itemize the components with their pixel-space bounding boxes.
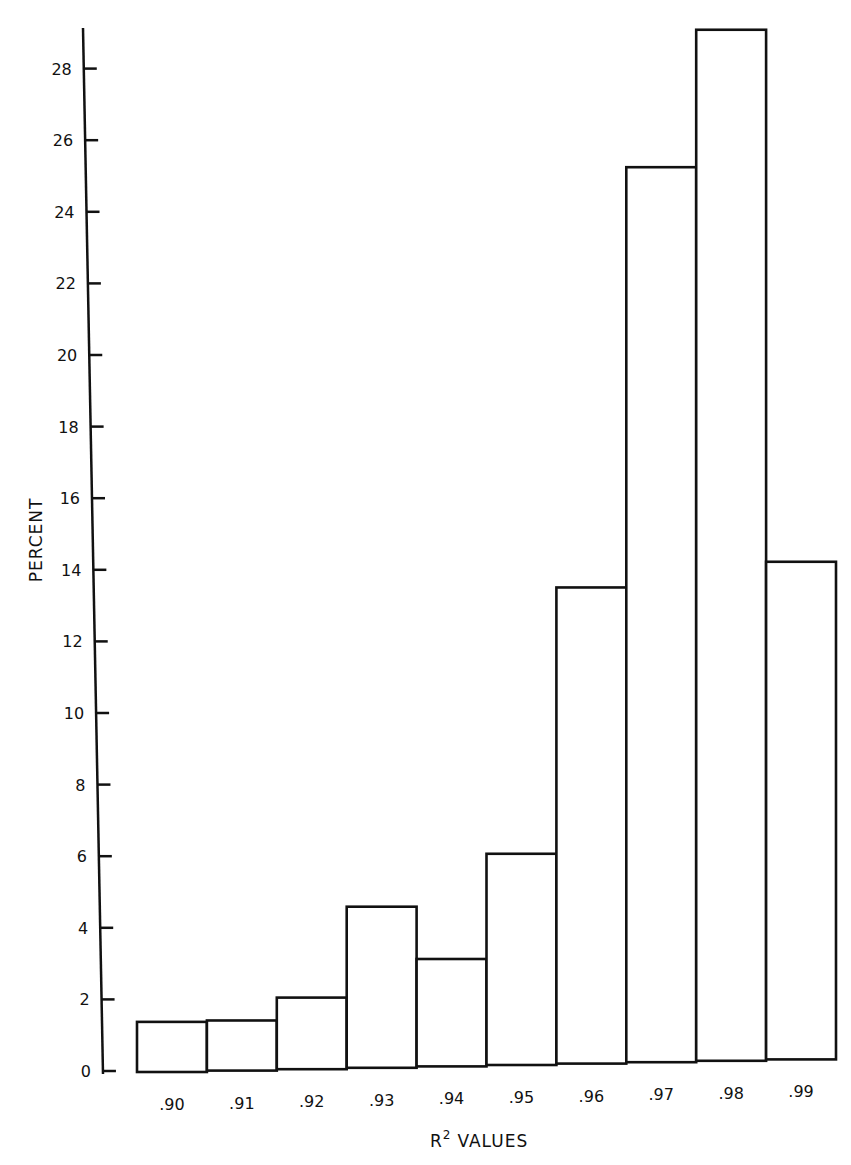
x-tick-label: .92: [299, 1092, 324, 1111]
y-axis-line: [83, 28, 103, 1074]
y-tick-label: 16: [60, 489, 80, 508]
histogram-bar: [696, 30, 766, 1061]
x-tick-label: .95: [509, 1088, 534, 1107]
x-axis-title-base: R: [430, 1131, 443, 1151]
x-axis-title: R2VALUES: [430, 1128, 528, 1151]
x-tick-label: .94: [439, 1089, 464, 1108]
histogram-bar: [417, 959, 487, 1066]
x-tick-label: .93: [369, 1091, 394, 1110]
histogram-bar: [626, 167, 696, 1062]
y-tick-label: 0: [81, 1062, 91, 1081]
y-tick-label: 4: [78, 919, 88, 938]
histogram-bar: [347, 907, 417, 1068]
x-tick-label: .98: [718, 1084, 743, 1103]
y-axis: 0246810121416182022242628: [51, 28, 116, 1081]
x-axis-labels: .90.91.92.93.94.95.96.97.98.99: [159, 1082, 814, 1114]
x-tick-label: .97: [649, 1085, 674, 1104]
y-axis-title: PERCENT: [26, 498, 46, 583]
histogram-chart: 0246810121416182022242628 .90.91.92.93.9…: [0, 0, 851, 1165]
histogram-bar: [766, 562, 836, 1060]
y-tick-label: 18: [58, 418, 78, 437]
x-tick-label: .99: [788, 1082, 813, 1101]
x-tick-label: .91: [229, 1094, 254, 1113]
x-axis-title-rest: VALUES: [457, 1131, 528, 1151]
y-tick-label: 2: [79, 990, 89, 1009]
histogram-bar: [207, 1020, 277, 1070]
histogram-bar: [556, 587, 626, 1063]
y-tick-label: 26: [53, 131, 73, 150]
x-tick-label: .96: [579, 1087, 604, 1106]
y-tick-label: 6: [77, 847, 87, 866]
y-tick-label: 14: [61, 561, 81, 580]
y-tick-label: 10: [64, 704, 84, 723]
histogram-bar: [277, 998, 347, 1070]
bars: [137, 30, 836, 1072]
x-tick-label: .90: [159, 1095, 184, 1114]
y-tick-label: 24: [54, 203, 74, 222]
x-axis-title-superscript: 2: [443, 1128, 452, 1142]
y-tick-label: 28: [51, 60, 71, 79]
histogram-bar: [487, 854, 557, 1065]
y-tick-label: 12: [62, 632, 82, 651]
histogram-bar: [137, 1022, 207, 1072]
y-tick-label: 8: [75, 776, 85, 795]
y-tick-label: 20: [57, 346, 77, 365]
y-tick-label: 22: [56, 274, 76, 293]
